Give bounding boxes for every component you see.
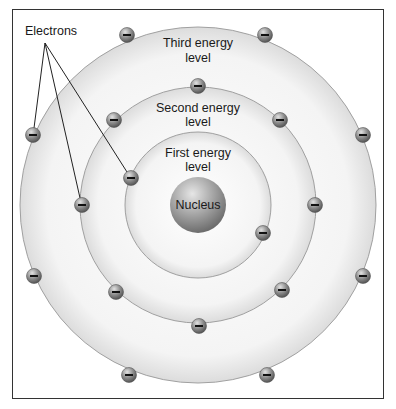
electron-second-level bbox=[308, 198, 323, 213]
atom-diagram: Nucleus Third energy level Second energy… bbox=[0, 0, 396, 409]
minus-sign-icon bbox=[110, 119, 118, 121]
minus-sign-icon bbox=[123, 34, 131, 36]
minus-sign-icon bbox=[259, 232, 267, 234]
minus-sign-icon bbox=[30, 275, 38, 277]
minus-sign-icon bbox=[78, 204, 86, 206]
first-level-label-line1: First energy bbox=[165, 146, 232, 160]
second-level-label-line1: Second energy bbox=[156, 101, 241, 115]
electron-third-level bbox=[26, 128, 41, 143]
minus-sign-icon bbox=[278, 289, 286, 291]
electron-third-level bbox=[120, 28, 135, 43]
electrons-label: Electrons bbox=[25, 24, 77, 38]
electron-second-level bbox=[275, 283, 290, 298]
minus-sign-icon bbox=[29, 134, 37, 136]
minus-sign-icon bbox=[359, 134, 367, 136]
electron-second-level bbox=[75, 198, 90, 213]
minus-sign-icon bbox=[311, 204, 319, 206]
electron-third-level bbox=[356, 128, 371, 143]
minus-sign-icon bbox=[359, 275, 367, 277]
minus-sign-icon bbox=[125, 374, 133, 376]
electron-third-level bbox=[260, 368, 275, 383]
electron-second-level bbox=[107, 113, 122, 128]
minus-sign-icon bbox=[195, 325, 203, 327]
minus-sign-icon bbox=[112, 291, 120, 293]
electron-third-level bbox=[27, 269, 42, 284]
electron-second-level bbox=[191, 79, 206, 94]
electron-second-level bbox=[192, 319, 207, 334]
electron-third-level bbox=[122, 368, 137, 383]
electron-first-level bbox=[124, 171, 139, 186]
minus-sign-icon bbox=[263, 374, 271, 376]
electron-first-level bbox=[256, 226, 271, 241]
minus-sign-icon bbox=[276, 119, 284, 121]
first-level-label-line2: level bbox=[185, 160, 211, 174]
electron-third-level bbox=[258, 28, 273, 43]
electron-second-level bbox=[273, 113, 288, 128]
nucleus-label: Nucleus bbox=[175, 198, 220, 212]
third-level-label-line1: Third energy bbox=[163, 36, 234, 50]
minus-sign-icon bbox=[261, 34, 269, 36]
electron-second-level bbox=[109, 285, 124, 300]
minus-sign-icon bbox=[127, 177, 135, 179]
electron-third-level bbox=[356, 269, 371, 284]
minus-sign-icon bbox=[194, 85, 202, 87]
third-level-label-line2: level bbox=[185, 51, 211, 65]
second-level-label-line2: level bbox=[185, 115, 211, 129]
